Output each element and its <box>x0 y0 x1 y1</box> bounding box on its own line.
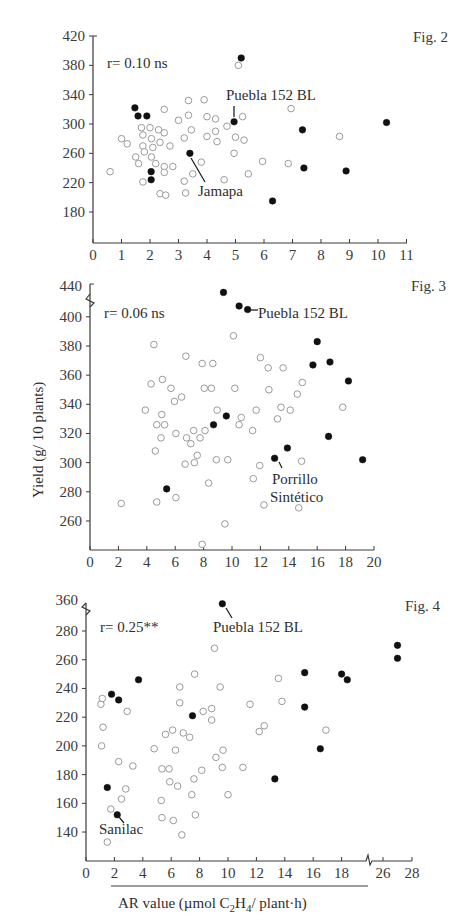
fig3-point-open <box>295 505 302 512</box>
fig2-label-puebla: Puebla 152 BL <box>226 87 316 103</box>
fig4-x-tick-label: 26 <box>376 865 392 881</box>
fig3-point-filled <box>244 306 251 313</box>
fig4-point-filled <box>301 669 308 676</box>
fig2-point-filled <box>132 105 139 112</box>
fig4-point-filled <box>394 655 401 662</box>
fig4-point-filled <box>219 601 226 608</box>
fig3-point-open <box>190 427 197 434</box>
fig3-x-tick-label: 14 <box>281 554 297 570</box>
fig4-point-open <box>172 747 179 754</box>
fig2-x-tick-label: 8 <box>317 247 325 263</box>
fig4-point-open <box>159 766 166 773</box>
fig3-point-open <box>257 354 264 361</box>
fig3-point-filled <box>223 413 230 420</box>
fig2-point-open <box>224 123 231 130</box>
fig3-point-open <box>205 480 212 487</box>
fig4-y-tick-label: 360 <box>56 592 79 608</box>
fig2-point-filled <box>343 168 350 175</box>
fig3-point-open <box>249 427 256 434</box>
fig2-point-open <box>212 116 219 123</box>
fig4-point-open <box>191 671 198 678</box>
fig4-point-open <box>323 727 330 734</box>
fig2-x-tick-label: 5 <box>232 247 240 263</box>
fig4-x-axis-break <box>366 855 372 865</box>
fig2-x-tick-label: 10 <box>371 247 386 263</box>
fig2-point-open <box>167 143 174 150</box>
fig3-y-tick-label: 380 <box>60 338 83 354</box>
fig3-x-tick-label: 4 <box>143 554 151 570</box>
fig3-point-open <box>294 391 301 398</box>
fig4-point-filled <box>108 691 115 698</box>
fig3-point-filled <box>271 455 278 462</box>
fig2-point-open <box>241 137 248 144</box>
fig4-point-filled <box>338 671 345 678</box>
fig2-y-tick-label: 260 <box>63 145 86 161</box>
fig4-point-open <box>217 684 224 691</box>
fig2-point-open <box>181 178 188 185</box>
fig3-point-open <box>199 360 206 367</box>
fig4-point-open <box>122 786 129 793</box>
fig3-x-tick-label: 6 <box>171 554 179 570</box>
fig4-point-open <box>247 701 254 708</box>
figure-panel: Fig. 2 r= 0.10 ns Puebla 152 BL Jamapa F… <box>0 0 475 924</box>
fig3-point-open <box>188 440 195 447</box>
fig3-point-open <box>266 386 273 393</box>
fig3-point-open <box>183 435 190 442</box>
fig2-point-open <box>214 138 221 145</box>
fig3-point-filled <box>325 433 332 440</box>
fig2-y-tick-label: 180 <box>63 204 86 220</box>
fig2-point-open <box>118 135 125 142</box>
fig2-point-open <box>204 133 211 140</box>
fig3-y-tick-label: 440 <box>60 278 83 294</box>
fig4-point-open <box>261 722 268 729</box>
fig2-point-open <box>189 171 196 178</box>
fig4-point-open <box>176 684 183 691</box>
fig4-point-open <box>124 708 131 715</box>
fig4-x-tick-label: 12 <box>249 865 264 881</box>
fig2-point-open <box>161 129 168 136</box>
fig3-x-tick-label: 0 <box>86 554 94 570</box>
fig3-point-open <box>230 332 237 339</box>
fig3-x-tick-label: 10 <box>225 554 240 570</box>
fig4-point-filled <box>301 704 308 711</box>
fig2-point-open <box>152 160 159 167</box>
fig4-label-sanilac: Sanilac <box>99 821 143 837</box>
fig4-point-open <box>188 791 195 798</box>
fig4-point-open <box>256 728 263 735</box>
fig2-point-open <box>212 128 219 135</box>
fig4-point-open <box>225 791 232 798</box>
fig3-x-tick-label: 18 <box>338 554 353 570</box>
fig3-point-filled <box>345 378 352 385</box>
fig3-point-open <box>213 456 220 463</box>
fig3-point-open <box>142 407 149 414</box>
fig3-point-open <box>208 385 215 392</box>
fig3-y-tick-label: 260 <box>60 513 83 529</box>
fig3-x-tick-label: 12 <box>253 554 268 570</box>
fig3-point-open <box>299 379 306 386</box>
fig2-x-tick-label: 7 <box>289 247 297 263</box>
fig3-x-tick-label: 2 <box>115 554 123 570</box>
fig4-point-open <box>275 675 282 682</box>
fig4-point-open <box>100 724 107 731</box>
fig3-point-open <box>298 458 305 465</box>
fig4-point-open <box>191 776 198 783</box>
fig4-point-open <box>151 745 158 752</box>
fig2-point-filled <box>148 168 155 175</box>
fig3-point-open <box>173 494 180 501</box>
fig3-point-open <box>183 353 190 360</box>
fig2-y-tick-label: 300 <box>63 116 86 132</box>
fig4-puebla-leader <box>226 608 232 618</box>
fig2-point-open <box>198 159 205 166</box>
fig2-point-filled <box>231 118 238 125</box>
fig3-point-filled <box>284 445 291 452</box>
fig2-x-tick-label: 6 <box>260 247 268 263</box>
fig3-y-tick-label: 300 <box>60 455 83 471</box>
fig2-label-jamapa: Jamapa <box>198 183 243 199</box>
fig4-point-open <box>176 700 183 707</box>
fig4-point-open <box>240 764 247 771</box>
fig4-point-open <box>211 645 218 652</box>
fig3-point-open <box>158 435 165 442</box>
fig4-x-tick-label: 2 <box>111 865 119 881</box>
fig4-point-open <box>158 797 165 804</box>
fig4-y-tick-label: 220 <box>56 709 79 725</box>
